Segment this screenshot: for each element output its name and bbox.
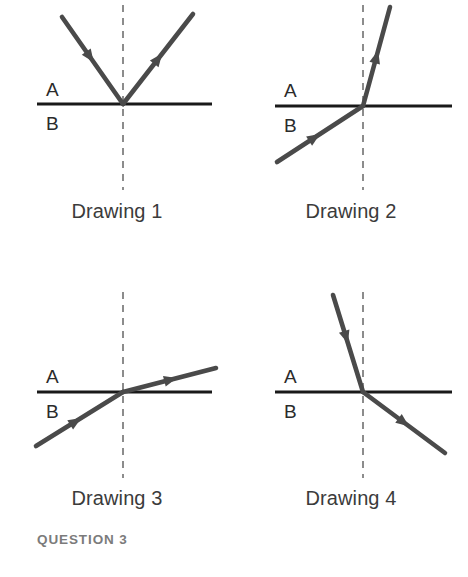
drawing-1-label: Drawing 1 bbox=[0, 200, 234, 223]
drawing-4-canvas: AB bbox=[234, 280, 468, 520]
ray-diagram-grid: ABDrawing 1ABDrawing 2ABDrawing 3ABDrawi… bbox=[0, 0, 468, 520]
medium-label-lower: B bbox=[284, 115, 297, 136]
question-caption: QUESTION 3 bbox=[37, 532, 128, 547]
medium-label-lower: B bbox=[46, 113, 59, 134]
drawing-4: ABDrawing 4 bbox=[234, 280, 468, 520]
incident-ray-arrowhead bbox=[339, 329, 349, 343]
refracted-ray-arrowhead bbox=[369, 51, 380, 65]
medium-label-lower: B bbox=[284, 401, 297, 422]
medium-label-upper: A bbox=[46, 366, 59, 387]
drawing-3: ABDrawing 3 bbox=[0, 280, 234, 520]
medium-label-upper: A bbox=[284, 80, 297, 101]
drawing-3-label: Drawing 3 bbox=[0, 487, 234, 510]
medium-label-lower: B bbox=[46, 401, 59, 422]
drawing-4-label: Drawing 4 bbox=[234, 487, 468, 510]
drawing-1: ABDrawing 1 bbox=[0, 0, 234, 240]
medium-label-upper: A bbox=[284, 366, 297, 387]
drawing-2: ABDrawing 2 bbox=[234, 0, 468, 240]
drawing-2-label: Drawing 2 bbox=[234, 200, 468, 223]
medium-label-upper: A bbox=[46, 79, 59, 100]
drawing-3-canvas: AB bbox=[0, 280, 234, 520]
